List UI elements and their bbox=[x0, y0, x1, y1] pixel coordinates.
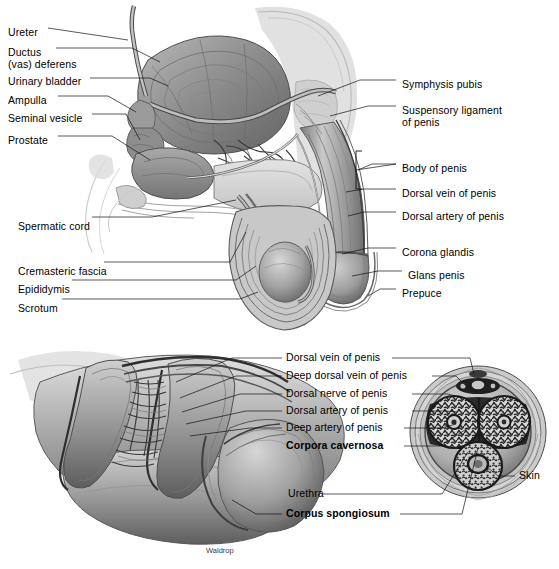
label-cremasteric-fascia: Cremasteric fascia bbox=[18, 265, 107, 278]
label-corpus-spongiosum: Corpus spongiosum bbox=[286, 507, 390, 520]
label-glans-penis: Glans penis bbox=[408, 269, 465, 282]
label-suspensory-ligament: Suspensory ligament bbox=[402, 104, 502, 117]
label-skin: Skin bbox=[519, 469, 540, 482]
label-urinary-bladder: Urinary bladder bbox=[8, 75, 81, 88]
label-prostate: Prostate bbox=[8, 134, 48, 147]
label-deep-artery-of-penis: Deep artery of penis bbox=[286, 421, 383, 434]
anatomy-figure: Ureter Ductus (vas) deferens Urinary bla… bbox=[0, 0, 559, 569]
label-dorsal-vein-of-penis-2: Dorsal vein of penis bbox=[286, 351, 380, 364]
label-symphysis-pubis: Symphysis pubis bbox=[402, 78, 482, 91]
label-epididymis: Epididymis bbox=[18, 283, 70, 296]
label-ampulla: Ampulla bbox=[8, 94, 47, 107]
label-corpora-cavernosa: Corpora cavernosa bbox=[286, 439, 383, 452]
label-prepuce: Prepuce bbox=[402, 287, 442, 300]
label-spermatic-cord: Spermatic cord bbox=[18, 220, 90, 233]
label-seminal-vesicle: Seminal vesicle bbox=[8, 112, 82, 125]
label-ductus: Ductus bbox=[8, 46, 41, 59]
lower-illustration bbox=[0, 340, 559, 569]
label-dorsal-artery-of-penis: Dorsal artery of penis bbox=[402, 210, 504, 223]
label-suspensory-ligament-of-penis: of penis bbox=[402, 116, 440, 129]
label-dorsal-vein-of-penis: Dorsal vein of penis bbox=[402, 187, 496, 200]
upper-illustration bbox=[0, 0, 559, 340]
label-urethra: Urethra bbox=[288, 487, 324, 500]
label-ureter: Ureter bbox=[8, 26, 38, 39]
label-vas-deferens: (vas) deferens bbox=[8, 58, 77, 71]
label-dorsal-nerve-of-penis: Dorsal nerve of penis bbox=[286, 387, 387, 400]
label-deep-dorsal-vein-of-penis: Deep dorsal vein of penis bbox=[286, 369, 407, 382]
artist-credit: Waldrop bbox=[206, 546, 234, 555]
label-corona-glandis: Corona glandis bbox=[402, 246, 474, 259]
label-body-of-penis: Body of penis bbox=[402, 162, 467, 175]
label-dorsal-artery-of-penis-2: Dorsal artery of penis bbox=[286, 404, 388, 417]
label-scrotum: Scrotum bbox=[18, 302, 58, 315]
